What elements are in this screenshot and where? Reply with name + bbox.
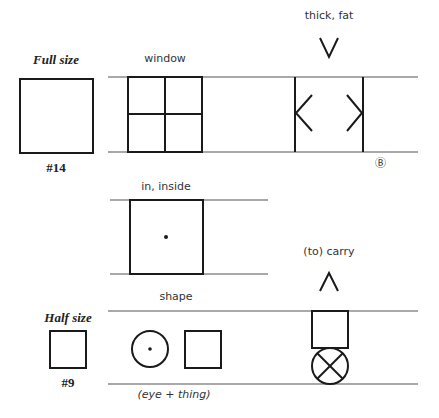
- inside-symbol: [130, 200, 203, 274]
- carry-label: (to) carry: [303, 245, 354, 258]
- thick-fat-label: thick, fat: [305, 9, 354, 22]
- guidelines-row-3: [108, 311, 418, 384]
- full-size-square: [20, 79, 93, 153]
- guidelines-row-2: [110, 200, 268, 274]
- full-size-label: Full size: [33, 52, 79, 68]
- window-symbol: [128, 77, 202, 152]
- shape-note: (eye + thing): [137, 388, 210, 401]
- thick-fat-symbol: [295, 38, 363, 152]
- half-size-label: Half size: [44, 310, 91, 326]
- half-size-square: [50, 331, 86, 368]
- shape-symbol: [132, 331, 221, 368]
- full-size-number: #14: [46, 160, 66, 176]
- registered-b-marker: Ⓑ: [375, 154, 386, 170]
- window-label: window: [144, 52, 186, 65]
- inside-label: in, inside: [141, 180, 191, 193]
- carry-symbol: [312, 273, 348, 384]
- half-size-number: #9: [62, 375, 75, 391]
- shape-label: shape: [159, 290, 192, 303]
